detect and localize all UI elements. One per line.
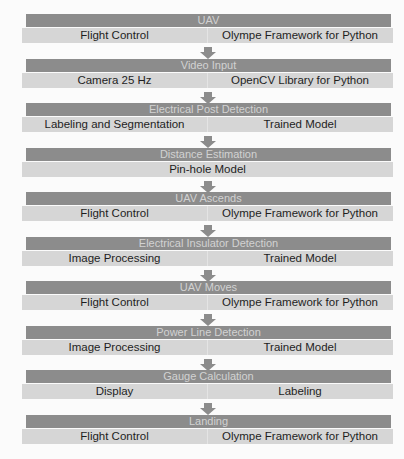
step-details: Flight Control Olympe Framework for Pyth… bbox=[22, 206, 393, 221]
step-title: Power Line Detection bbox=[26, 326, 391, 339]
step-details: Labeling and Segmentation Trained Model bbox=[22, 117, 393, 132]
arrow-down-icon bbox=[200, 268, 216, 280]
step-details: Flight Control Olympe Framework for Pyth… bbox=[22, 295, 393, 310]
step-details: Flight Control Olympe Framework for Pyth… bbox=[22, 429, 393, 444]
step-title: Electrical Post Detection bbox=[26, 103, 391, 116]
step-detail-right: Labeling bbox=[207, 384, 393, 399]
step-block: Electrical Insulator Detection Image Pro… bbox=[22, 237, 393, 267]
step-detail-left: Camera 25 Hz bbox=[22, 73, 207, 88]
arrow-down-icon bbox=[200, 401, 216, 413]
step-detail-left: Flight Control bbox=[22, 429, 207, 444]
step-block: Power Line Detection Image Processing Tr… bbox=[22, 326, 393, 356]
step-detail-left: Image Processing bbox=[22, 340, 207, 355]
step-detail-right: Trained Model bbox=[207, 251, 393, 266]
step-details: Camera 25 Hz OpenCV Library for Python bbox=[22, 73, 393, 88]
arrow-down-icon bbox=[200, 90, 216, 102]
step-detail-left: Display bbox=[22, 384, 207, 399]
step-detail-left: Flight Control bbox=[22, 206, 207, 221]
step-detail-right: Trained Model bbox=[207, 340, 393, 355]
step-title: Video Input bbox=[26, 59, 391, 72]
step-details: Display Labeling bbox=[22, 384, 393, 399]
arrow-down-icon bbox=[200, 134, 216, 146]
step-title: UAV bbox=[26, 14, 391, 27]
step-detail-left: Flight Control bbox=[22, 28, 207, 43]
step-title: UAV Moves bbox=[26, 281, 391, 294]
step-block: UAV Moves Flight Control Olympe Framewor… bbox=[22, 281, 393, 311]
step-detail-right: Olympe Framework for Python bbox=[207, 28, 393, 43]
step-block: Gauge Calculation Display Labeling bbox=[22, 370, 393, 400]
step-detail-left: Flight Control bbox=[22, 295, 207, 310]
step-detail-center: Pin-hole Model bbox=[22, 162, 393, 177]
step-block: UAV Ascends Flight Control Olympe Framew… bbox=[22, 192, 393, 222]
step-details: Pin-hole Model bbox=[22, 162, 393, 177]
step-title: Distance Estimation bbox=[26, 148, 391, 161]
step-details: Image Processing Trained Model bbox=[22, 251, 393, 266]
arrow-down-icon bbox=[200, 312, 216, 324]
step-block: UAV Flight Control Olympe Framework for … bbox=[22, 14, 393, 44]
step-block: Distance Estimation Pin-hole Model bbox=[22, 148, 393, 178]
arrow-down-icon bbox=[200, 357, 216, 369]
step-title: Landing bbox=[26, 415, 391, 428]
arrow-down-icon bbox=[200, 179, 216, 191]
step-details: Image Processing Trained Model bbox=[22, 340, 393, 355]
step-title: Gauge Calculation bbox=[26, 370, 391, 383]
step-detail-right: Olympe Framework for Python bbox=[207, 295, 393, 310]
step-block: Video Input Camera 25 Hz OpenCV Library … bbox=[22, 59, 393, 89]
step-title: UAV Ascends bbox=[26, 192, 391, 205]
step-title: Electrical Insulator Detection bbox=[26, 237, 391, 250]
step-detail-right: Olympe Framework for Python bbox=[207, 429, 393, 444]
step-detail-left: Labeling and Segmentation bbox=[22, 117, 207, 132]
arrow-down-icon bbox=[200, 223, 216, 235]
arrow-down-icon bbox=[200, 45, 216, 57]
step-details: Flight Control Olympe Framework for Pyth… bbox=[22, 28, 393, 43]
step-detail-right: Trained Model bbox=[207, 117, 393, 132]
step-detail-right: Olympe Framework for Python bbox=[207, 206, 393, 221]
step-block: Electrical Post Detection Labeling and S… bbox=[22, 103, 393, 133]
step-detail-right: OpenCV Library for Python bbox=[207, 73, 393, 88]
step-block: Landing Flight Control Olympe Framework … bbox=[22, 415, 393, 445]
step-detail-left: Image Processing bbox=[22, 251, 207, 266]
